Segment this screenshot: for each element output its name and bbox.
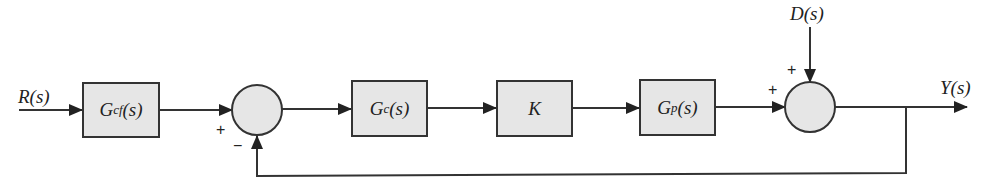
reference-plus-sign: + [216,122,225,138]
input-label: R(s) [18,87,50,106]
disturbance-plus-sign: + [787,62,796,78]
output-label: Y(s) [940,78,971,97]
prefilter-arg: (s) [123,99,143,121]
error-summing-junction [232,85,282,135]
disturbance-summing-junction [785,82,835,132]
prefilter-sub: cf [113,102,122,118]
prefilter-main: G [99,99,113,121]
plant-arg: (s) [678,97,698,119]
gain-main: K [528,98,541,120]
plant-main: G [657,97,671,119]
disturbance-label: D(s) [790,4,824,23]
controller-block: Gc(s) [351,80,428,137]
controller-main: G [370,98,384,120]
prefilter-block: Gcf(s) [82,82,160,138]
plant-plus-sign: + [768,82,777,98]
controller-arg: (s) [389,98,409,120]
plant-block: Gp(s) [639,79,716,136]
block-diagram: R(s) D(s) Y(s) Gcf(s) Gc(s) K Gp(s) + − … [0,0,989,189]
feedback-minus-sign: − [233,138,242,154]
gain-block: K [496,80,573,137]
